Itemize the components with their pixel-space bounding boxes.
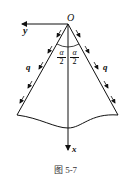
figure-caption: 图 5-7 (0, 163, 131, 176)
half-angle-left: α 2 (57, 49, 66, 66)
wedge-right-edge (68, 24, 118, 115)
half-angle-right: α 2 (70, 49, 79, 66)
load-label-right: q (103, 63, 108, 72)
origin-label: O (67, 13, 74, 23)
angle-numerator: α (70, 49, 79, 57)
load-arrows-right (76, 30, 115, 103)
load-label-left: q (26, 63, 31, 72)
angle-denominator: 2 (57, 58, 66, 66)
angle-denominator: 2 (70, 58, 79, 66)
wedge-diagram (0, 0, 131, 181)
y-axis-label: y (23, 26, 27, 36)
angle-numerator: α (57, 49, 66, 57)
x-axis-label: x (72, 145, 77, 154)
wedge-left-edge (17, 24, 68, 115)
